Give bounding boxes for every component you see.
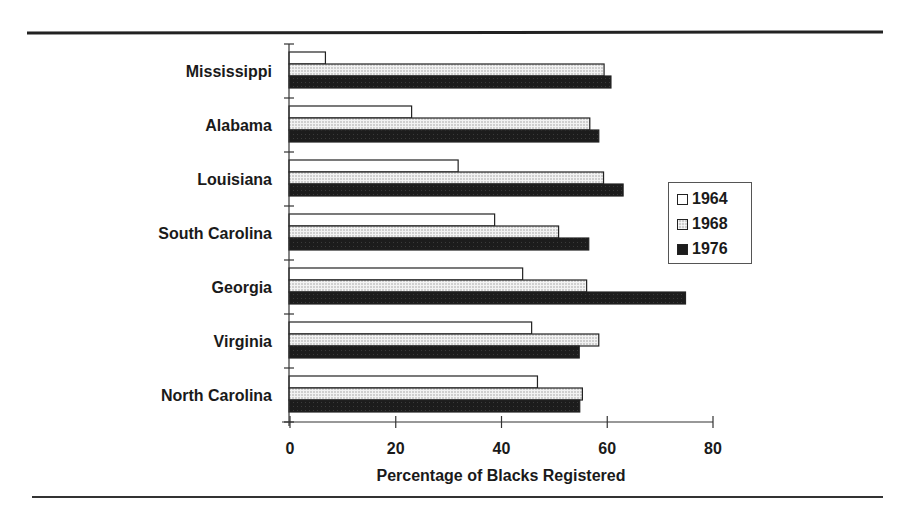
bar-1968 [289,64,604,76]
bar-1976 [289,292,686,304]
x-tick-label: 20 [387,440,405,457]
category-label: Mississippi [186,63,272,80]
legend-item-1964: 1964 [677,189,728,209]
bar-1976 [289,400,580,412]
bar-1968 [289,280,587,292]
legend: 1964 1968 1976 [668,182,752,264]
legend-label: 1968 [692,215,728,233]
legend-label: 1964 [692,190,728,208]
x-axis-title: Percentage of Blacks Registered [377,467,626,484]
x-tick-label: 0 [286,440,295,457]
legend-swatch-1976 [677,244,688,255]
legend-swatch-1968 [677,219,688,230]
bar-1976 [289,346,579,358]
bar-1964 [289,52,325,64]
bar-1976 [289,184,623,196]
bar-1976 [289,76,611,88]
x-tick-label: 40 [493,440,511,457]
bar-1968 [289,226,559,238]
legend-item-1976: 1976 [677,239,728,259]
category-labels: MississippiAlabamaLouisianaSouth Carolin… [158,63,272,404]
bar-1964 [289,376,537,388]
bar-1968 [289,388,582,400]
x-tick-label: 80 [704,440,722,457]
bars-group [289,52,686,412]
category-label: Georgia [212,279,273,296]
legend-label: 1976 [692,240,728,258]
bar-1968 [289,118,590,130]
legend-swatch-1964 [677,194,688,205]
bar-1976 [289,238,589,250]
bar-1968 [289,172,604,184]
legend-item-1968: 1968 [677,214,728,234]
bar-1968 [289,334,599,346]
bar-1964 [289,214,495,226]
bar-1976 [289,130,599,142]
category-label: Louisiana [197,171,272,188]
bar-1964 [289,322,532,334]
bar-chart: 020406080Percentage of Blacks Registered… [0,0,910,524]
category-label: Alabama [205,117,272,134]
category-label: Virginia [214,333,272,350]
x-tick-label: 60 [598,440,616,457]
bottom-rule [32,496,883,498]
bar-1964 [289,106,412,118]
category-label: North Carolina [161,387,272,404]
bar-1964 [289,160,458,172]
x-axis: 020406080Percentage of Blacks Registered [282,416,722,484]
category-label: South Carolina [158,225,272,242]
bar-1964 [289,268,523,280]
